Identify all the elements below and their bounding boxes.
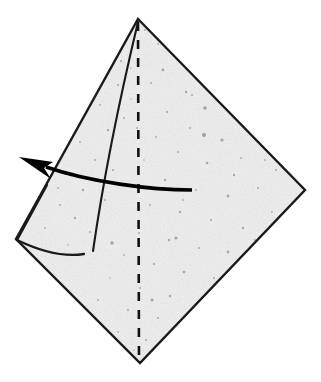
- origami-diagram: [0, 0, 321, 382]
- paper-speck: [264, 159, 266, 161]
- paper-speck: [257, 187, 259, 189]
- paper-speck: [242, 227, 244, 229]
- paper-speck: [242, 117, 245, 120]
- paper-speck: [218, 54, 220, 56]
- paper-speck: [262, 134, 264, 136]
- paper-speck: [123, 254, 125, 256]
- paper-speck: [275, 169, 277, 171]
- paper-speck: [138, 232, 140, 234]
- paper-speck: [150, 82, 152, 84]
- paper-speck: [139, 287, 141, 289]
- paper-speck: [44, 227, 46, 229]
- paper-speck: [182, 199, 184, 201]
- paper-speck: [240, 157, 242, 159]
- paper-speck: [99, 104, 101, 106]
- paper-speck: [157, 43, 159, 45]
- paper-speck: [271, 211, 273, 213]
- paper-speck: [191, 94, 193, 96]
- paper-speck: [209, 77, 212, 80]
- paper-speck: [203, 106, 207, 110]
- paper-speck: [169, 295, 171, 297]
- paper-speck: [79, 141, 81, 143]
- paper-speck: [143, 159, 145, 161]
- paper-speck: [166, 111, 168, 113]
- paper-speck: [130, 98, 132, 100]
- paper-speck: [109, 277, 111, 279]
- paper-speck: [177, 151, 179, 153]
- paper-speck: [228, 94, 230, 96]
- paper-speck: [220, 138, 223, 141]
- paper-speck: [202, 133, 206, 137]
- paper-speck: [57, 187, 59, 189]
- paper-speck: [237, 265, 239, 267]
- origami-diagram-svg: [0, 0, 321, 382]
- paper-speck: [123, 117, 125, 119]
- paper-speck: [144, 29, 146, 31]
- paper-speck: [133, 349, 135, 351]
- paper-speck: [233, 174, 235, 176]
- paper-speck: [185, 91, 187, 93]
- paper-speck: [94, 159, 96, 161]
- paper-speck: [174, 236, 177, 239]
- paper-speck: [117, 84, 119, 86]
- paper-speck: [130, 67, 132, 69]
- paper-speck: [206, 162, 209, 165]
- paper-speck: [189, 127, 191, 129]
- paper-speck: [179, 211, 182, 214]
- paper-speck: [110, 241, 113, 244]
- paper-speck: [149, 204, 151, 206]
- paper-speck: [220, 287, 222, 289]
- paper-speck: [195, 62, 197, 64]
- paper-speck: [117, 331, 119, 333]
- paper-speck: [198, 247, 200, 249]
- paper-speck: [74, 217, 76, 219]
- paper-speck: [250, 104, 252, 106]
- paper-speck: [195, 189, 197, 191]
- paper-speck: [164, 179, 166, 181]
- paper-speck: [82, 189, 84, 191]
- paper-speck: [210, 219, 212, 221]
- paper-speck: [120, 60, 122, 62]
- paper-speck: [157, 347, 159, 349]
- paper-speck: [153, 263, 155, 265]
- paper-texture-layer: [0, 0, 321, 382]
- paper-speck: [168, 239, 170, 241]
- paper-speck: [67, 244, 69, 246]
- paper-speck: [59, 204, 61, 206]
- paper-speck: [227, 195, 230, 198]
- paper-speck: [162, 69, 165, 72]
- paper-speck: [112, 169, 114, 171]
- paper-speck: [155, 136, 157, 138]
- paper-speck: [89, 231, 91, 233]
- paper-speck: [204, 304, 206, 306]
- paper-speck: [97, 299, 99, 301]
- paper-speck: [213, 277, 215, 279]
- paper-speck: [145, 339, 147, 341]
- paper-speck: [285, 154, 287, 156]
- paper-speck: [151, 299, 154, 302]
- paper-speck: [107, 129, 109, 131]
- paper-speck: [136, 127, 138, 129]
- paper-speck: [227, 251, 230, 254]
- paper-speck: [157, 317, 159, 319]
- paper-speck: [104, 199, 106, 201]
- paper-speck: [127, 309, 129, 311]
- paper-speck: [183, 271, 186, 274]
